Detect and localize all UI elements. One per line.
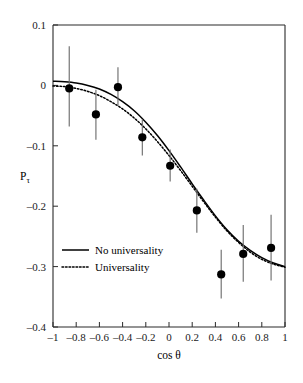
data-point	[193, 206, 201, 214]
y-tick-label: –0.3	[26, 261, 47, 273]
y-tick-label: 0	[41, 79, 47, 91]
data-point	[217, 270, 225, 278]
x-tick-label: 0.6	[232, 331, 246, 343]
y-tick-label: 0.1	[32, 19, 46, 31]
data-point	[92, 110, 100, 118]
x-tick-label: –1	[47, 331, 59, 343]
data-point	[138, 133, 146, 141]
x-tick-label: 0	[166, 331, 172, 343]
x-tick-label: –0.2	[135, 331, 155, 343]
legend-label-universality: Universality	[95, 261, 150, 273]
figure-root: –1–0.8–0.6–0.4–0.200.20.40.60.81 0.10–0.…	[0, 0, 303, 383]
y-tick-label: –0.2	[26, 200, 46, 212]
data-point	[267, 244, 275, 252]
x-axis-title: cos θ	[157, 349, 181, 361]
chart-canvas: –1–0.8–0.6–0.4–0.200.20.40.60.81 0.10–0.…	[0, 0, 303, 383]
x-tick-label: –0.4	[112, 331, 133, 343]
y-axis-title-subscript: τ	[26, 175, 30, 185]
x-tick-label: –0.6	[89, 331, 110, 343]
data-point	[114, 83, 122, 91]
x-tick-label: 0.8	[255, 331, 269, 343]
legend-label-no-universality: No universality	[95, 244, 164, 256]
x-tick-label: –0.8	[66, 331, 87, 343]
data-point	[239, 250, 247, 258]
x-tick-label: 1	[282, 331, 288, 343]
y-tick-label: –0.1	[26, 140, 46, 152]
data-point	[166, 162, 174, 170]
data-point	[65, 84, 73, 92]
x-tick-label: 0.2	[185, 331, 199, 343]
y-tick-label: –0.4	[26, 321, 47, 333]
x-tick-label: 0.4	[209, 331, 223, 343]
